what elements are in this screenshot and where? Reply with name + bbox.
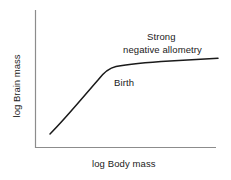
allometry-curve bbox=[50, 58, 218, 134]
annotation-birth: Birth bbox=[114, 77, 134, 88]
y-axis-label: log Brain mass bbox=[11, 55, 22, 118]
annotation-strong-line1: Strong bbox=[147, 31, 176, 42]
x-axis-label: log Body mass bbox=[92, 158, 156, 169]
y-axis-label-container: log Brain mass bbox=[8, 38, 24, 134]
chart-plot-area bbox=[0, 0, 231, 180]
allometry-chart-figure: log Brain mass log Body mass Strong nega… bbox=[0, 0, 231, 180]
annotation-strong-line2: negative allometry bbox=[123, 44, 202, 55]
